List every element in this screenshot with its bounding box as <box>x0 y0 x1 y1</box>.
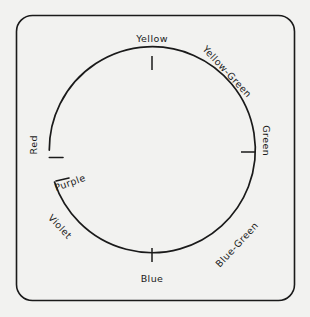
wheel-label-blue: Blue <box>128 274 176 284</box>
wheel-label-red: Red <box>29 127 39 163</box>
color-wheel-figure: Yellow Yellow-Green Green Blue-Green Blu… <box>0 0 310 317</box>
wheel-label-yellow: Yellow <box>128 34 176 44</box>
wheel-label-green: Green <box>261 119 271 163</box>
